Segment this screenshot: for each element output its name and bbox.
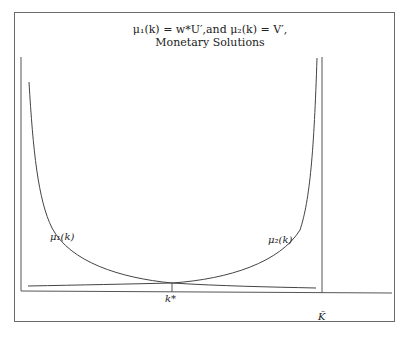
mu2-curve [28,58,317,286]
mu1-curve [29,82,316,288]
x-axis [21,291,392,293]
mu2-label: μ₂(k) [268,234,292,245]
kstar-label: k* [165,293,176,304]
mu1-label: μ₁(k) [50,231,74,242]
diagram-plot [0,0,406,339]
kbar-label: K̄ [318,311,325,322]
